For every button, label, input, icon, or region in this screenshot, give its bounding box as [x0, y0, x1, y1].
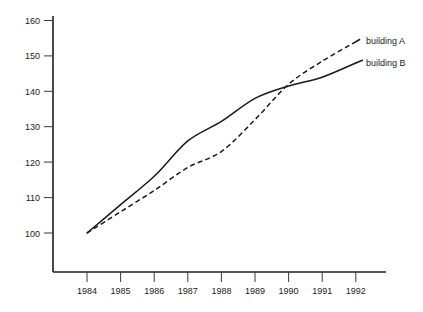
- line-chart: 160 150 140 130 120 110 100 1984 1985 19…: [0, 0, 423, 312]
- chart-canvas: 160 150 140 130 120 110 100 1984 1985 19…: [0, 0, 423, 312]
- x-tick-label: 1988: [211, 286, 231, 296]
- x-tick-label: 1989: [245, 286, 265, 296]
- x-tick-label: 1984: [77, 286, 97, 296]
- y-tick-label: 120: [25, 158, 40, 168]
- y-tick-label: 150: [25, 51, 40, 61]
- x-tick-label: 1992: [346, 286, 366, 296]
- y-tick-label: 100: [25, 229, 40, 239]
- x-tick-label: 1990: [279, 286, 299, 296]
- y-tick-label: 110: [26, 193, 40, 203]
- x-tick-label: 1991: [312, 286, 332, 296]
- x-tick-label: 1987: [178, 286, 198, 296]
- chart-background: [0, 0, 423, 312]
- y-tick-label: 130: [25, 122, 40, 132]
- y-tick-label: 140: [25, 87, 40, 97]
- legend-label-building-a: building A: [366, 36, 405, 46]
- y-tick-label: 160: [25, 16, 40, 26]
- x-tick-label: 1986: [144, 286, 164, 296]
- legend-label-building-b: building B: [366, 58, 406, 68]
- x-tick-label: 1985: [111, 286, 131, 296]
